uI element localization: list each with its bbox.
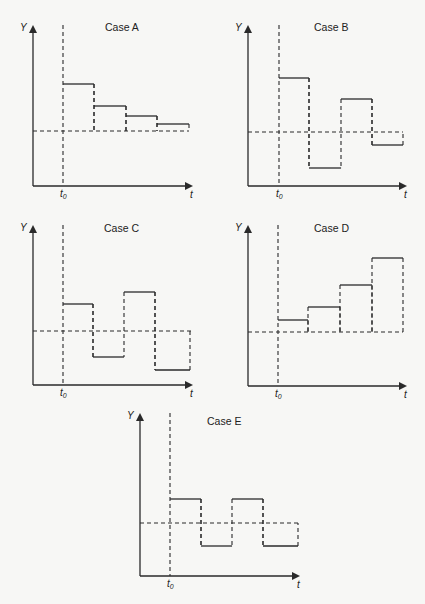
panel-title: Case D — [314, 222, 349, 234]
y-axis-label: Y — [20, 22, 28, 33]
panel-case-e: Case EYtt0 — [127, 410, 301, 590]
panel-case-a: Case AYtt0 — [20, 21, 194, 200]
panel-title: Case C — [104, 222, 139, 234]
t0-label: t0 — [167, 578, 174, 590]
panel-case-c: Case CYtt0 — [20, 222, 194, 399]
x-axis-label: t — [190, 388, 194, 399]
t0-label: t0 — [275, 388, 282, 400]
x-axis-label: t — [404, 189, 408, 200]
t0-label: t0 — [60, 188, 67, 200]
x-axis-label: t — [190, 189, 194, 200]
panel-title: Case A — [105, 21, 139, 33]
t0-label: t0 — [60, 387, 67, 399]
y-axis-label: Y — [235, 222, 243, 233]
y-axis-label: Y — [20, 222, 28, 233]
x-axis-label: t — [297, 579, 301, 590]
panel-case-b: Case BYtt0 — [235, 21, 408, 200]
dynamic-paths-figure: Case AYtt0Case BYtt0Case CYtt0Case DYtt0… — [0, 0, 425, 604]
y-axis-label: Y — [127, 410, 135, 421]
panel-title: Case E — [207, 415, 241, 427]
panel-title: Case B — [314, 21, 348, 33]
panel-case-d: Case DYtt0 — [235, 222, 408, 400]
x-axis-label: t — [404, 389, 408, 400]
t0-label: t0 — [276, 188, 283, 200]
y-axis-label: Y — [235, 22, 243, 33]
